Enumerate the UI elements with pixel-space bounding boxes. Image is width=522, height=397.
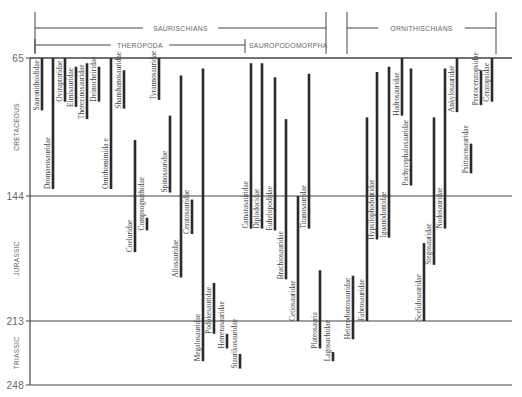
family-range-bar <box>470 144 473 174</box>
family-label: Deinocheiridae <box>89 56 98 102</box>
family-range-bar <box>169 116 172 193</box>
family-label: Lagosuchidae <box>323 319 332 361</box>
family-label: Ceratopsidae <box>482 62 491 101</box>
family-range-bar <box>410 68 413 185</box>
family-label: Psittacosauridae <box>461 125 470 174</box>
family-label: Elmisauridae <box>66 67 75 107</box>
family-label: Protoceratopsidae <box>471 51 480 105</box>
clade-label: SAURISCHIANS <box>153 25 208 32</box>
family-range-bar <box>239 354 242 369</box>
family-label: Compsognathidae <box>137 176 146 230</box>
family-label: Stegosauridae <box>424 223 433 265</box>
family-range-bar <box>352 276 355 340</box>
family-range-bar <box>319 270 322 348</box>
family-label: Hypsilophodontidae <box>367 179 376 240</box>
family-label: Tyrannosauridae <box>149 50 158 100</box>
family-range-bar <box>261 63 264 228</box>
family-range-bar <box>158 58 161 100</box>
y-tick-label: 144 <box>6 191 24 202</box>
y-tick-label: 65 <box>12 53 24 64</box>
family-label: Megalosauridae <box>193 313 202 361</box>
family-label: Ornithomimida e <box>101 138 110 189</box>
clade-bracket-sauropodomorpha: SAUROPODOMORPHA <box>245 39 328 53</box>
family-label: Dromaeosauridae <box>43 136 52 189</box>
family-range-bar <box>191 200 194 234</box>
clade-bracket-theropoda: THEROPODA <box>35 39 245 53</box>
family-label: Podokesauridae <box>204 286 213 334</box>
family-range-bar <box>134 140 137 252</box>
family-label: Hadrosauridae <box>392 72 401 116</box>
family-label: Diplodocidae <box>252 188 261 229</box>
family-range-bar <box>332 352 335 361</box>
clade-label: SAUROPODOMORPHA <box>249 42 328 49</box>
family-label: Oviraptoridae <box>55 60 64 102</box>
family-range-bar <box>213 283 216 334</box>
family-label: Therezinosauridae <box>77 64 86 119</box>
family-label: Pachycephalosauridae <box>401 119 410 185</box>
family-label: Camarasauridae <box>241 180 250 228</box>
family-range-bar <box>274 77 277 230</box>
period-label: TRIASSIC <box>13 337 20 369</box>
family-label: Cetiosauridae <box>288 280 297 321</box>
family-label: Spinosauridae <box>160 150 169 193</box>
period-label: CRETACEOUS <box>13 103 20 151</box>
family-range-bar <box>456 58 459 112</box>
period-label: JURASSIC <box>13 241 20 276</box>
family-range-bar <box>146 218 149 231</box>
family-range-bar <box>388 67 391 238</box>
family-label: Sauronithoididae <box>32 59 41 110</box>
family-range-bar <box>285 119 288 279</box>
family-range-bar <box>110 58 113 189</box>
family-label: Ankylosauridae <box>447 65 456 113</box>
family-label: Plateosauria <box>310 312 319 349</box>
family-label: Brachiosauridae <box>276 231 285 280</box>
family-range-bar <box>226 334 229 349</box>
family-label: Euhelopodidae <box>265 185 274 230</box>
family-range-bar <box>86 63 89 119</box>
family-label: Staurikosauridae <box>230 318 239 368</box>
clade-brackets: SAURISCHIANSTHEROPODASAUROPODOMORPHAORNI… <box>30 12 512 58</box>
family-label: Titanosauridae <box>299 184 308 228</box>
family-label: Ceratosauridae <box>182 189 191 234</box>
clade-bracket-ornithischians: ORNITHISCHIANS <box>347 12 496 54</box>
family-label: Heterodontosauridae <box>343 277 352 339</box>
family-label: Herrerasauridae <box>217 301 226 349</box>
dinosaur-family-range-chart: SAURISCHIANSTHEROPODASAUROPODOMORPHAORNI… <box>0 0 522 397</box>
family-range-bar <box>444 68 447 228</box>
clade-label: ORNITHISCHIANS <box>390 25 453 32</box>
family-label: Shanshanosauridae <box>114 51 123 108</box>
family-range-bar <box>308 74 311 229</box>
family-range-bar <box>41 58 44 110</box>
family-range-bar <box>401 58 404 116</box>
y-tick-label: 248 <box>6 380 24 391</box>
family-label: Nodosauridae <box>435 187 444 229</box>
family-range-bar <box>52 58 55 189</box>
family-range-bar <box>180 75 183 277</box>
family-label: Coeluridae <box>125 219 134 252</box>
family-range-bar <box>491 58 494 102</box>
y-tick-label: 213 <box>6 316 24 327</box>
family-range-bar <box>123 70 126 108</box>
clade-label: THEROPODA <box>117 42 163 49</box>
family-range-bar <box>376 72 379 240</box>
family-label: Iguanodontidae <box>379 191 388 238</box>
family-label: Scelidosauridae <box>414 273 423 321</box>
family-range-bar <box>98 67 101 102</box>
family-label: Allosauridae <box>171 239 180 277</box>
family-label: Fabrosauridae <box>357 278 366 321</box>
